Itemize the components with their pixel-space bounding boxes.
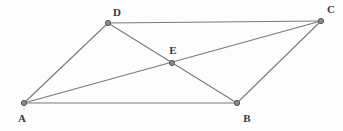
diagram-canvas [0,0,343,131]
vertex-label-b: B [243,113,250,124]
vertex-point-b [234,100,239,105]
vertex-label-a: A [18,113,26,124]
vertex-label-d: D [113,7,121,18]
vertex-label-e: E [169,45,176,56]
vertex-point-a [21,100,26,105]
vertex-label-c: C [327,4,335,15]
vertex-point-c [318,18,323,23]
vertex-point-d [105,20,110,25]
geometry-diagram: ABCDE [0,0,343,131]
vertex-point-e [169,60,174,65]
segment-bc [237,21,321,103]
segment-dc [108,21,321,23]
